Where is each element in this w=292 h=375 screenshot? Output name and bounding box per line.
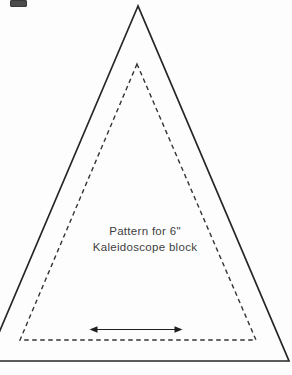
kaleidoscope-pattern-diagram xyxy=(0,0,292,375)
pattern-page: Pattern for 6" Kaleidoscope block xyxy=(0,0,292,375)
grainline-arrow-icon xyxy=(90,326,183,332)
pattern-caption-line2: Kaleidoscope block xyxy=(0,239,290,255)
grainline-arrowhead-left xyxy=(90,326,98,332)
pattern-caption-line1: Pattern for 6" xyxy=(0,223,290,239)
outer-cutting-triangle xyxy=(0,6,289,361)
grainline-arrowhead-right xyxy=(175,326,183,332)
pattern-caption: Pattern for 6" Kaleidoscope block xyxy=(0,223,290,255)
